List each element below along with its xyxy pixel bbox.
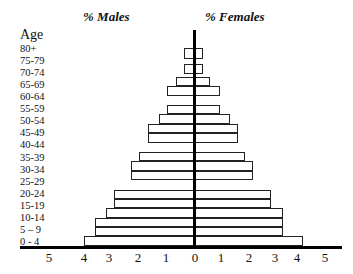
female-bar — [195, 190, 271, 199]
females-title: % Females — [205, 9, 265, 25]
x-tick-label: 5 — [46, 250, 53, 266]
age-label: 80+ — [20, 43, 36, 54]
male-bar — [131, 171, 195, 180]
x-tick-label: 4 — [81, 250, 88, 266]
female-bar — [195, 114, 230, 124]
female-bar — [195, 64, 203, 74]
age-label: 70-74 — [20, 67, 45, 78]
female-bar — [195, 124, 238, 133]
age-label: 5 – 9 — [20, 224, 41, 235]
female-bar — [195, 208, 283, 218]
female-bar — [195, 48, 203, 59]
x-tick-label: 1 — [218, 250, 225, 266]
female-bar — [195, 105, 220, 114]
female-bar — [195, 161, 253, 171]
male-bar — [84, 236, 195, 246]
age-label: 60-64 — [20, 91, 45, 102]
female-bar — [195, 152, 245, 161]
male-bar — [95, 227, 195, 236]
x-tick-label: 3 — [106, 250, 113, 266]
male-bar — [114, 199, 195, 208]
female-bar — [195, 86, 220, 96]
center-axis-line — [193, 30, 196, 248]
age-label: 10-14 — [20, 212, 45, 223]
male-bar — [114, 190, 195, 199]
female-bar — [195, 171, 253, 180]
male-bar — [148, 124, 195, 133]
female-bar — [195, 236, 303, 246]
x-axis-line — [20, 246, 342, 249]
age-label: 75-79 — [20, 55, 45, 66]
male-bar — [139, 152, 195, 161]
female-bar — [195, 133, 238, 143]
x-tick-label: 4 — [294, 250, 301, 266]
age-label: 65-69 — [20, 79, 45, 90]
age-label: 40-44 — [20, 139, 45, 150]
x-tick-label: 2 — [246, 250, 253, 266]
male-bar — [159, 114, 195, 124]
x-tick-label: 0 — [192, 250, 199, 266]
age-label: 30-34 — [20, 164, 45, 175]
x-tick-label: 2 — [135, 250, 142, 266]
age-label: 35-39 — [20, 152, 45, 163]
age-label: 25-29 — [20, 176, 45, 187]
female-bar — [195, 199, 271, 208]
male-bar — [106, 208, 195, 218]
age-label: 50-54 — [20, 115, 45, 126]
male-bar — [167, 105, 195, 114]
female-bar — [195, 218, 283, 227]
female-bar — [195, 77, 210, 86]
female-bar — [195, 227, 283, 236]
x-tick-label: 3 — [272, 250, 279, 266]
male-bar — [95, 218, 195, 227]
age-label: 45-49 — [20, 127, 45, 138]
x-tick-label: 5 — [322, 250, 329, 266]
age-axis-label: Age — [20, 27, 43, 43]
males-title: % Males — [83, 9, 130, 25]
x-tick-label: 1 — [163, 250, 170, 266]
male-bar — [131, 161, 195, 171]
male-bar — [148, 133, 195, 143]
age-label: 20-24 — [20, 188, 45, 199]
age-label: 15-19 — [20, 200, 45, 211]
male-bar — [167, 86, 195, 96]
age-label: 55-59 — [20, 103, 45, 114]
